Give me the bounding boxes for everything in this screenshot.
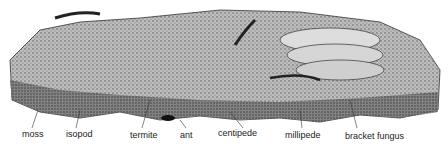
label-millipede: millipede <box>285 130 321 140</box>
millipede-top <box>55 13 100 18</box>
label-ant: ant <box>180 130 193 140</box>
label-moss: moss <box>22 129 44 139</box>
label-termite: termite <box>130 130 158 140</box>
ant-shape <box>161 115 175 121</box>
log-drawing <box>0 0 448 147</box>
rotting-log-illustration: moss isopod termite ant centipede millip… <box>0 0 448 147</box>
label-centipede: centipede <box>218 128 257 138</box>
label-bracket-fungus: bracket fungus <box>345 131 404 141</box>
label-isopod: isopod <box>66 129 93 139</box>
